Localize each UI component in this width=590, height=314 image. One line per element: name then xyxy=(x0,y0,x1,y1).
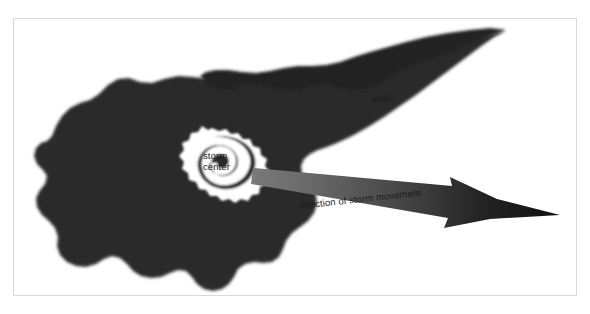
storm-center-label-line1: storm xyxy=(203,150,230,161)
storm-center-label-line2: center xyxy=(203,161,230,172)
storm-diagram-figure: anvil storm center direction of storm mo… xyxy=(0,0,590,314)
storm-diagram-canvas xyxy=(0,0,590,314)
storm-center-label: storm center xyxy=(203,150,230,172)
anvil-label: anvil xyxy=(371,93,391,104)
storm-cloud-shape xyxy=(34,31,505,291)
